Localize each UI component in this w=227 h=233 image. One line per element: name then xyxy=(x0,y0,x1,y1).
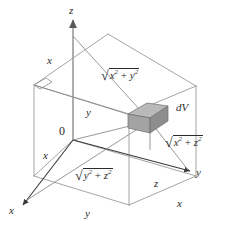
origin-label: 0 xyxy=(59,125,65,137)
edge-label-x-near-origin: x xyxy=(43,150,48,161)
volume-element-label-v: V xyxy=(182,101,189,113)
figure-diagram-svg xyxy=(0,0,227,233)
radical-operator-xz: + xyxy=(182,136,194,148)
x-axis xyxy=(23,140,73,205)
axis-label-z: z xyxy=(69,5,73,16)
radical-sign-xz: √ xyxy=(165,135,173,150)
radical-sign-xy: √ xyxy=(101,68,109,83)
wireframe-box xyxy=(34,34,196,205)
radical-sign-yz: √ xyxy=(75,168,83,183)
distance-label-xz: √x2 + z2 xyxy=(165,135,203,150)
radical-body-yz: y2 + z2 xyxy=(83,168,113,181)
distance-label-xy: √x2 + y2 xyxy=(101,68,139,83)
axis-label-x-left: x xyxy=(9,205,14,216)
radical-exp2-yz: 2 xyxy=(108,168,112,176)
axis-label-y-right: y xyxy=(196,167,201,178)
base-edge-left-back xyxy=(34,140,73,176)
radical-body-xy: x2 + y2 xyxy=(109,68,140,81)
radical-operator-yz: + xyxy=(92,169,104,181)
radical-exp2-xy: 2 xyxy=(135,68,139,76)
edge-label-y-mid: y xyxy=(86,107,91,118)
edge-label-z-right: z xyxy=(154,178,158,189)
volume-element-box xyxy=(128,103,168,133)
base-edge-front-right xyxy=(129,176,196,205)
edge-label-x-top-left: x xyxy=(47,55,52,66)
distance-label-yz: √y2 + z2 xyxy=(75,168,113,183)
top-face-edge-left xyxy=(34,34,108,85)
volume-element-label: dV xyxy=(176,102,188,113)
figure-root: z y x 0 x y x y z x dV √x2 + y2 √x2 + z2… xyxy=(0,0,227,233)
edge-label-y-bottom: y xyxy=(85,208,90,219)
radical-exp2-xz: 2 xyxy=(198,135,202,143)
radical-body-xz: x2 + z2 xyxy=(173,135,203,148)
radical-operator-xy: + xyxy=(118,69,130,81)
edge-label-x-bottom-right: x xyxy=(177,198,182,209)
